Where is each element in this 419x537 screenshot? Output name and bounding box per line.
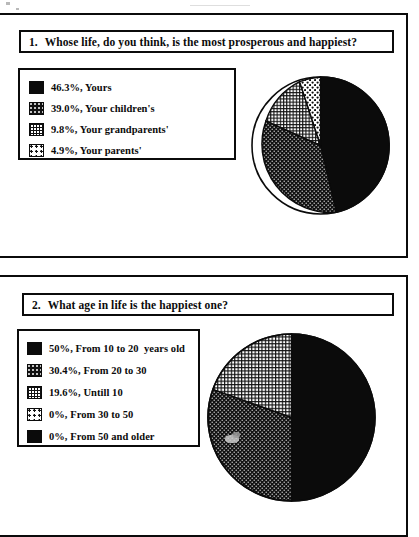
scan-speck bbox=[190, 5, 250, 6]
swatch-grid-icon bbox=[27, 386, 42, 399]
legend-item-label: 50%, From 10 to 20 years old bbox=[49, 343, 185, 354]
chart-panel-1: 1. Whose life, do you think, is the most… bbox=[0, 13, 408, 258]
question-text-1: Whose life, do you think, is the most pr… bbox=[45, 36, 358, 48]
legend-item-label: 39.0%, Your children's bbox=[51, 103, 155, 114]
legend-item: 39.0%, Your children's bbox=[29, 98, 234, 118]
legend-box-2: 50%, From 10 to 20 years old 30.4%, From… bbox=[17, 329, 200, 447]
pie-2-slice-10-to-20 bbox=[292, 334, 376, 501]
legend-item-label: 30.4%, From 20 to 30 bbox=[49, 365, 147, 376]
legend-item-label: 0%, From 30 to 50 bbox=[49, 409, 133, 420]
pie-chart-2-svg bbox=[207, 333, 376, 502]
legend-item: 4.9%, Your parents' bbox=[29, 140, 234, 160]
chart-panel-2: 2. What age in life is the happiest one?… bbox=[0, 275, 408, 537]
legend-item-label: 46.3%, Yours bbox=[51, 82, 112, 93]
legend-item-label: 0%, From 50 and older bbox=[49, 431, 155, 442]
legend-item-label: 4.9%, Your parents' bbox=[51, 145, 142, 156]
legend-item: 46.3%, Yours bbox=[29, 77, 234, 97]
legend-item: 50%, From 10 to 20 years old bbox=[27, 337, 198, 359]
legend-item: 0%, From 50 and older bbox=[27, 425, 198, 447]
legend-item-label: 19.6%, Untill 10 bbox=[49, 387, 123, 398]
legend-item-label: 9.8%, Your grandparents' bbox=[51, 124, 169, 135]
legend-item: 9.8%, Your grandparents' bbox=[29, 119, 234, 139]
question-title-box-1: 1. Whose life, do you think, is the most… bbox=[19, 30, 394, 53]
legend-item: 30.4%, From 20 to 30 bbox=[27, 359, 198, 381]
scan-speck bbox=[16, 8, 19, 10]
legend-box-1: 46.3%, Yours 39.0%, Your children's 9.8%… bbox=[18, 68, 236, 160]
pie-chart-1 bbox=[251, 76, 390, 215]
swatch-solid-black-icon bbox=[29, 81, 44, 94]
swatch-grid-icon bbox=[29, 123, 44, 136]
question-number-2: 2. bbox=[32, 299, 41, 311]
question-title-box-2: 2. What age in life is the happiest one? bbox=[22, 293, 394, 316]
swatch-dark-dots-icon bbox=[27, 364, 42, 377]
scan-speck bbox=[6, 2, 10, 5]
swatch-dark-dots-icon bbox=[29, 102, 44, 115]
legend-item: 19.6%, Untill 10 bbox=[27, 381, 198, 403]
swatch-light-dots-icon bbox=[27, 408, 42, 421]
legend-item: 0%, From 30 to 50 bbox=[27, 403, 198, 425]
pie-chart-1-svg bbox=[251, 76, 390, 215]
question-text-2: What age in life is the happiest one? bbox=[48, 299, 228, 311]
swatch-solid-black-icon bbox=[27, 430, 42, 443]
swatch-solid-black-icon bbox=[27, 342, 42, 355]
pie-chart-2 bbox=[207, 333, 376, 502]
question-number-1: 1. bbox=[29, 36, 38, 48]
swatch-light-dots-icon bbox=[29, 144, 44, 157]
